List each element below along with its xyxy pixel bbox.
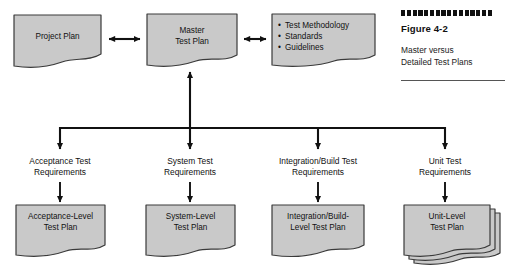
- caption-dot: [407, 10, 411, 16]
- document-shape-unit-level-plan-front: [404, 205, 490, 256]
- document-shape-master-test-plan: [147, 14, 237, 66]
- bullet-item: •Test Methodology: [278, 20, 374, 31]
- bullet-item: •Guidelines: [278, 42, 374, 53]
- caption-dot: [482, 10, 486, 16]
- caption-dot: [424, 10, 428, 16]
- caption-dot: [441, 10, 445, 16]
- diagram-canvas: Project Plan Master Test Plan •Test Meth…: [0, 0, 516, 273]
- document-shape-project-plan: [14, 15, 101, 67]
- caption-dot: [401, 10, 405, 16]
- caption-dot: [453, 10, 457, 16]
- caption-dot: [413, 10, 417, 16]
- caption-divider: [401, 80, 505, 81]
- caption-dot-rule-icon: [401, 10, 505, 16]
- bullet-item-label: Guidelines: [285, 43, 324, 52]
- label-acceptance-test-requirements: Acceptance Test Requirements: [5, 156, 115, 177]
- caption-dot: [476, 10, 480, 16]
- caption-dot: [459, 10, 463, 16]
- document-shape-system-level-plan: [146, 205, 235, 256]
- bullet-item-label: Test Methodology: [285, 21, 349, 30]
- caption-dot: [447, 10, 451, 16]
- caption-dot: [470, 10, 474, 16]
- bullet-item-label: Standards: [285, 32, 322, 41]
- bullet-dot-icon: •: [278, 31, 285, 42]
- label-unit-test-requirements: Unit Test Requirements: [392, 156, 498, 177]
- caption-dot: [436, 10, 440, 16]
- bullet-list-standards: •Test Methodology •Standards •Guidelines: [278, 20, 374, 54]
- document-shape-integration-level-plan: [272, 205, 364, 256]
- document-shape-acceptance-level-plan: [16, 205, 105, 256]
- caption-dot: [488, 10, 492, 16]
- label-integration-build-test-requirements: Integration/Build Test Requirements: [257, 156, 379, 177]
- figure-number: Figure 4-2: [401, 23, 505, 34]
- caption-dot: [430, 10, 434, 16]
- figure-caption-text: Master versus Detailed Test Plans: [401, 45, 505, 68]
- figure-caption-block: Figure 4-2 Master versus Detailed Test P…: [401, 10, 505, 81]
- label-system-test-requirements: System Test Requirements: [135, 156, 245, 177]
- bullet-dot-icon: •: [278, 20, 285, 31]
- caption-dot: [418, 10, 422, 16]
- bullet-dot-icon: •: [278, 42, 285, 53]
- caption-dot: [465, 10, 469, 16]
- bullet-item: •Standards: [278, 31, 374, 42]
